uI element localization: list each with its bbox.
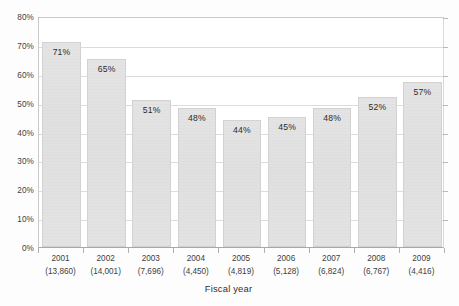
y-axis-tick-label: 20% bbox=[0, 186, 34, 195]
x-axis-category-count: (4,416) bbox=[399, 266, 444, 279]
bar[interactable] bbox=[178, 108, 217, 247]
bar-value-label: 48% bbox=[313, 113, 352, 123]
bar[interactable] bbox=[132, 100, 171, 247]
bar[interactable] bbox=[42, 42, 81, 247]
bar[interactable] bbox=[268, 117, 307, 247]
x-axis-category-count: (6,824) bbox=[309, 266, 354, 279]
bar[interactable] bbox=[223, 120, 262, 247]
bar-value-label: 52% bbox=[358, 102, 397, 112]
x-axis-category-count: (4,450) bbox=[173, 266, 218, 279]
x-axis-category-label: 2004(4,450) bbox=[173, 253, 218, 278]
x-axis-category-count: (6,767) bbox=[354, 266, 399, 279]
x-axis-category-label: 2006(5,128) bbox=[264, 253, 309, 278]
y-axis-tick-label: 10% bbox=[0, 215, 34, 224]
y-axis-tick-label: 40% bbox=[0, 128, 34, 137]
bar-value-label: 71% bbox=[42, 47, 81, 57]
bar-slot: 51% bbox=[132, 18, 171, 247]
plot-area: 71%65%51%48%44%45%48%52%57% bbox=[38, 17, 444, 248]
bar[interactable] bbox=[87, 59, 126, 247]
bar[interactable] bbox=[403, 82, 442, 247]
x-axis-category-label: 2008(6,767) bbox=[354, 253, 399, 278]
x-axis-category-label: 2001(13,860) bbox=[38, 253, 83, 278]
x-axis-category-label: 2003(7,696) bbox=[128, 253, 173, 278]
y-axis-tick-label: 80% bbox=[0, 13, 34, 22]
bar-slot: 71% bbox=[42, 18, 81, 247]
y-axis-tick-label: 0% bbox=[0, 244, 34, 253]
x-axis-category-year: 2002 bbox=[83, 253, 128, 266]
x-axis-category-count: (14,001) bbox=[83, 266, 128, 279]
y-axis-tick-label: 60% bbox=[0, 70, 34, 79]
y-axis-tick-mark bbox=[443, 76, 448, 77]
x-axis-category-year: 2004 bbox=[173, 253, 218, 266]
y-axis-tick-mark bbox=[443, 220, 448, 221]
bar[interactable] bbox=[313, 108, 352, 247]
x-axis-category-count: (13,860) bbox=[38, 266, 83, 279]
y-axis-tick-mark bbox=[443, 47, 448, 48]
x-axis-title-text: Fiscal year bbox=[205, 283, 253, 294]
bar-slot: 52% bbox=[358, 18, 397, 247]
bar-slot: 45% bbox=[268, 18, 307, 247]
bar-slot: 65% bbox=[87, 18, 126, 247]
x-axis-category-label: 2002(14,001) bbox=[83, 253, 128, 278]
y-axis-tick-mark bbox=[443, 18, 448, 19]
y-axis-tick-label: 50% bbox=[0, 99, 34, 108]
bar-value-label: 65% bbox=[87, 64, 126, 74]
x-axis-category-year: 2008 bbox=[354, 253, 399, 266]
bar-slot: 48% bbox=[313, 18, 352, 247]
x-axis-category-year: 2001 bbox=[38, 253, 83, 266]
x-axis-category-year: 2003 bbox=[128, 253, 173, 266]
bar-value-label: 44% bbox=[223, 125, 262, 135]
x-axis-category-count: (4,819) bbox=[218, 266, 263, 279]
y-axis-tick-label: 70% bbox=[0, 41, 34, 50]
y-axis-tick-mark bbox=[443, 162, 448, 163]
bar-value-label: 48% bbox=[178, 113, 217, 123]
x-axis-category-year: 2005 bbox=[218, 253, 263, 266]
bar-value-label: 57% bbox=[403, 87, 442, 97]
x-axis-category-year: 2006 bbox=[264, 253, 309, 266]
x-axis-category-year: 2009 bbox=[399, 253, 444, 266]
y-axis-tick-mark bbox=[443, 191, 448, 192]
bar-slot: 48% bbox=[178, 18, 217, 247]
x-axis-category-label: 2007(6,824) bbox=[309, 253, 354, 278]
y-axis-tick-mark bbox=[443, 105, 448, 106]
bar-slot: 57% bbox=[403, 18, 442, 247]
x-axis-category-year: 2007 bbox=[309, 253, 354, 266]
x-axis-category-label: 2005(4,819) bbox=[218, 253, 263, 278]
x-axis-tick-mark bbox=[444, 248, 445, 253]
x-axis-category-count: (7,696) bbox=[128, 266, 173, 279]
bar-slot: 44% bbox=[223, 18, 262, 247]
x-axis-category-count: (5,128) bbox=[264, 266, 309, 279]
bar-value-label: 51% bbox=[132, 105, 171, 115]
x-axis-category-label: 2009(4,416) bbox=[399, 253, 444, 278]
x-axis-title: Fiscal year bbox=[0, 283, 459, 294]
y-axis-tick-mark bbox=[443, 134, 448, 135]
bar-chart: 0%10%20%30%40%50%60%70%80% 71%65%51%48%4… bbox=[0, 0, 459, 306]
y-axis-tick-label: 30% bbox=[0, 157, 34, 166]
bar-value-label: 45% bbox=[268, 122, 307, 132]
bar[interactable] bbox=[358, 97, 397, 247]
